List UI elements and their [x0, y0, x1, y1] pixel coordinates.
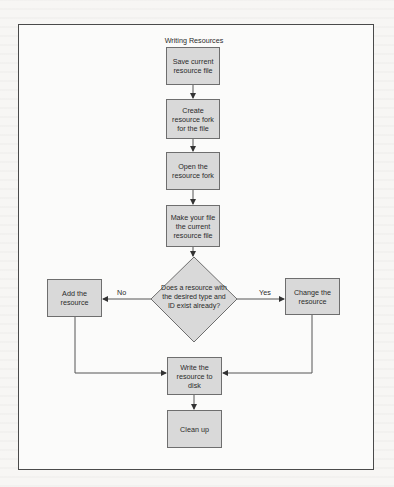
edge-label-no: No — [117, 288, 126, 297]
node-make-current-resource-file: Make your file the current resource file — [166, 205, 220, 247]
node-change-resource: Change the resource — [285, 278, 340, 315]
decision-label: Does a resource with the desired type an… — [160, 283, 228, 310]
diagram-title: Writing Resources — [140, 36, 248, 45]
node-add-resource: Add the resource — [47, 279, 102, 317]
node-save-resource-file: Save current resource file — [166, 47, 220, 85]
node-create-resource-fork: Create resource fork for the file — [166, 99, 220, 139]
node-write-resource-to-disk: Write the resource to disk — [167, 357, 222, 395]
node-clean-up: Clean up — [167, 410, 222, 448]
edge-label-yes: Yes — [259, 288, 271, 297]
node-open-resource-fork: Open the resource fork — [166, 152, 220, 190]
